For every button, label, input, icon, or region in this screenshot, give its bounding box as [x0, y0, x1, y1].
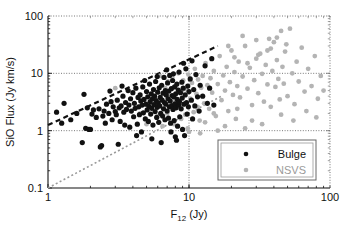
chart-legend[interactable]: BulgeNSVS [218, 140, 316, 180]
chart-background [0, 0, 345, 227]
x-tick-label: 100 [321, 191, 339, 203]
y-tick-label: 100 [25, 10, 43, 22]
legend-marker-bulge [244, 152, 249, 157]
legend-marker-nsvs [244, 168, 249, 173]
y-tick-label: 0.1 [28, 182, 43, 194]
y-tick-label: 10 [31, 67, 43, 79]
legend-label-nsvs[interactable]: NSVS [276, 164, 306, 176]
x-tick-label: 10 [183, 191, 195, 203]
y-tick-label: 1 [37, 125, 43, 137]
svg-text:SiO Flux (Jy km/s): SiO Flux (Jy km/s) [4, 57, 16, 147]
legend-label-bulge[interactable]: Bulge [278, 148, 306, 160]
y-axis-label: SiO Flux (Jy km/s) [4, 57, 16, 147]
x-tick-label: 1 [45, 191, 51, 203]
figure-container: 1101000.1110100 F12 (Jy) SiO Flux (Jy km… [0, 0, 345, 227]
sio-flux-vs-f12-scatter-chart: 1101000.1110100 F12 (Jy) SiO Flux (Jy km… [0, 0, 345, 227]
